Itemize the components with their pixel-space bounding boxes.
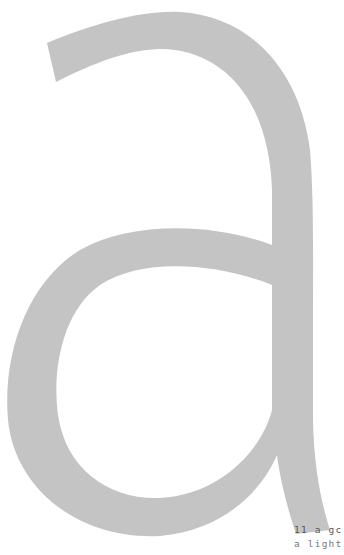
caption-line-2: a light [294, 538, 344, 550]
caption-line-1: 11 a gc [294, 524, 344, 536]
letter-a-shape [7, 12, 330, 536]
